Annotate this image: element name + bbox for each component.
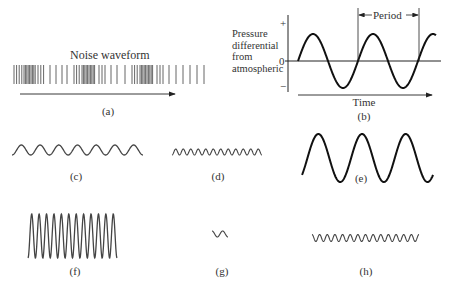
caption-e: (e) — [355, 172, 367, 184]
caption-g: (g) — [216, 265, 229, 277]
sine-wave-e — [302, 134, 433, 182]
y-axis-label-line: differential — [232, 40, 283, 52]
y-tick-plus: + — [280, 17, 286, 29]
y-tick-zero: 0 — [279, 55, 285, 67]
sine-wave-f — [28, 214, 117, 258]
caption-d: (d) — [212, 170, 225, 182]
sine-wave-c — [12, 145, 143, 155]
panel-b-plot — [285, 8, 441, 95]
period-label: Period — [373, 9, 402, 21]
sine-wave-g — [212, 231, 228, 237]
caption-b: (b) — [358, 110, 371, 122]
noise-waveform — [14, 65, 204, 84]
sine-wave-d — [172, 149, 262, 155]
figure-canvas — [0, 0, 449, 292]
caption-a: (a) — [102, 105, 114, 117]
y-tick-minus: − — [280, 80, 286, 92]
y-axis-label-line: Pressure — [232, 28, 283, 40]
caption-c: (c) — [70, 170, 82, 182]
x-axis-label: Time — [353, 96, 376, 108]
y-axis-label-line: from — [232, 51, 283, 63]
noise-waveform-title: Noise waveform — [70, 49, 150, 61]
caption-h: (h) — [360, 265, 373, 277]
y-axis-label: Pressure differential from atmospheric — [232, 28, 283, 74]
sine-wave-h — [312, 235, 419, 242]
y-axis-label-line: atmospheric — [232, 63, 283, 75]
caption-f: (f) — [70, 265, 81, 277]
